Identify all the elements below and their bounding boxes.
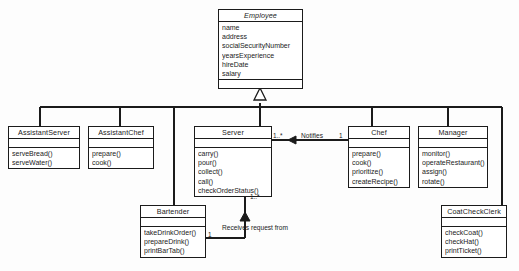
class-bartender-attributes — [141, 218, 205, 227]
receives-request-from-label: Receives request from — [222, 224, 288, 232]
class-bartender-name: Bartender — [141, 206, 205, 218]
class-server-attributes — [195, 139, 271, 148]
class-assistant-server[interactable]: AssistantServer serveBread() serveWater(… — [8, 126, 80, 169]
class-assistant-chef-name: AssistantChef — [89, 127, 153, 139]
class-coat-check-clerk-attributes — [442, 218, 506, 227]
attribute: salary — [222, 69, 302, 78]
class-manager-attributes — [419, 139, 487, 148]
class-employee[interactable]: Employee name address socialSecurityNumb… — [218, 9, 303, 89]
class-coat-check-clerk[interactable]: CoatCheckClerk checkCoat() checkHat() pr… — [441, 205, 507, 258]
class-employee-attributes: name address socialSecurityNumber yearsE… — [219, 22, 302, 80]
operation: cook() — [352, 158, 409, 167]
operation: prepare() — [352, 149, 409, 158]
operation: prepare() — [92, 149, 153, 158]
operation: printBarTab() — [144, 246, 205, 255]
class-bartender-operations: takeDrinkOrder() prepareDrink() printBar… — [141, 227, 205, 257]
attribute: hireDate — [222, 60, 302, 69]
operation: serveBread() — [12, 149, 79, 158]
class-assistant-server-attributes — [9, 139, 79, 148]
operation: assign() — [422, 167, 487, 176]
operation: collect() — [198, 167, 271, 176]
class-coat-check-clerk-operations: checkCoat() checkHat() printTicket() — [442, 227, 506, 257]
operation: takeDrinkOrder() — [144, 228, 205, 237]
generalization-arrowhead — [254, 88, 266, 100]
operation: checkOrderStatus() — [198, 186, 271, 195]
class-assistant-chef-operations: prepare() cook() — [89, 148, 153, 168]
operation: createRecipe() — [352, 177, 409, 186]
class-server-operations: carry() pour() collect() call() checkOrd… — [195, 148, 271, 196]
operation: cook() — [92, 158, 153, 167]
receives-bartender-multiplicity: 1 — [208, 231, 212, 239]
operation: carry() — [198, 149, 271, 158]
operation: checkCoat() — [445, 228, 506, 237]
class-coat-check-clerk-name: CoatCheckClerk — [442, 206, 506, 218]
class-assistant-chef[interactable]: AssistantChef prepare() cook() — [88, 126, 154, 169]
class-chef-name: Chef — [349, 127, 409, 139]
operation: rotate() — [422, 177, 487, 186]
class-employee-operations — [219, 80, 302, 88]
notifies-server-multiplicity: 1..* — [273, 132, 283, 140]
class-bartender[interactable]: Bartender takeDrinkOrder() prepareDrink(… — [140, 205, 206, 258]
receives-direction-arrowhead — [240, 212, 250, 221]
operation: call() — [198, 177, 271, 186]
operation: printTicket() — [445, 246, 506, 255]
notifies-direction-arrowhead — [288, 136, 296, 144]
class-assistant-server-name: AssistantServer — [9, 127, 79, 139]
uml-class-diagram: Employee name address socialSecurityNumb… — [0, 0, 519, 271]
class-chef[interactable]: Chef prepare() cook() prioritize() creat… — [348, 126, 410, 188]
class-manager-operations: monitor() operateRestaurant() assign() r… — [419, 148, 487, 187]
attribute: name — [222, 23, 302, 32]
class-server[interactable]: Server carry() pour() collect() call() c… — [194, 126, 272, 197]
operation: monitor() — [422, 149, 487, 158]
notifies-label: Notifies — [301, 132, 323, 140]
class-assistant-server-operations: serveBread() serveWater() — [9, 148, 79, 168]
operation: prioritize() — [352, 167, 409, 176]
notifies-chef-multiplicity: 1 — [339, 132, 343, 140]
operation: checkHat() — [445, 237, 506, 246]
class-employee-name: Employee — [219, 10, 302, 22]
operation: serveWater() — [12, 158, 79, 167]
operation: pour() — [198, 158, 271, 167]
operation: operateRestaurant() — [422, 158, 487, 167]
attribute: address — [222, 32, 302, 41]
class-manager-name: Manager — [419, 127, 487, 139]
operation: prepareDrink() — [144, 237, 205, 246]
class-chef-operations: prepare() cook() prioritize() createReci… — [349, 148, 409, 187]
attribute: yearsExperience — [222, 51, 302, 60]
class-chef-attributes — [349, 139, 409, 148]
class-server-name: Server — [195, 127, 271, 139]
receives-server-multiplicity: 1..* — [250, 193, 260, 201]
class-assistant-chef-attributes — [89, 139, 153, 148]
attribute: socialSecurityNumber — [222, 41, 302, 50]
class-manager[interactable]: Manager monitor() operateRestaurant() as… — [418, 126, 488, 188]
